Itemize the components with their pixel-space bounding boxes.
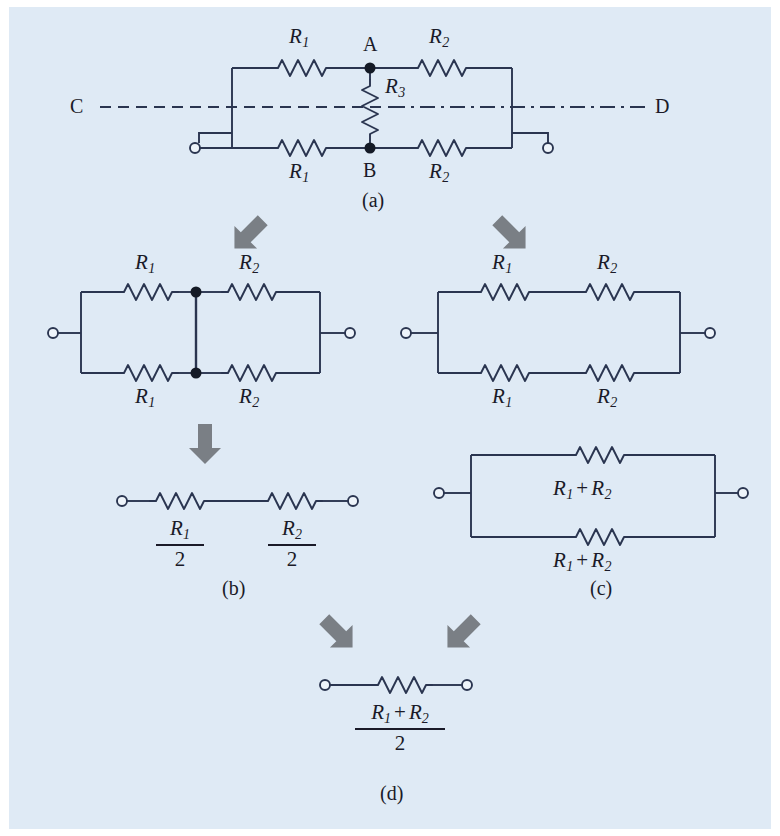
- panel-b-resistor-r1-top: [118, 284, 178, 300]
- panel-a-label-node-b: B: [363, 160, 376, 180]
- panel-b-node-b-dot: [191, 368, 202, 379]
- panel-c-label-r2-bottom: R2: [597, 386, 617, 410]
- panel-a-left-terminal-jog: [199, 133, 232, 143]
- panel-b-top-circuit: [48, 284, 355, 381]
- panel-c-final-resistor-bottom: [570, 529, 630, 545]
- arrow-b-top-to-b-final: [189, 424, 221, 464]
- panel-c-final-label-bottom: R1+R2: [553, 550, 612, 574]
- arrow-b-to-d: [313, 608, 364, 659]
- panel-a-resistor-r3: [362, 80, 378, 140]
- panel-a-node-a-dot: [365, 63, 376, 74]
- caption-b: (b): [222, 578, 245, 598]
- panel-c-right-terminal-node: [705, 328, 715, 338]
- panel-c-final-resistor-top: [570, 447, 630, 463]
- panel-d-resistor: [372, 677, 432, 693]
- panel-b-final-resistor-r2-half: [262, 493, 322, 509]
- panel-c-resistor-r2-bottom: [580, 365, 640, 381]
- panel-c-final-left-terminal-node: [434, 488, 444, 498]
- panel-c-left-terminal-node: [401, 328, 411, 338]
- panel-b-label-r1-top: R1: [135, 252, 155, 276]
- figure-root: R1 R2 R1 R2 R3 A B C D (a) R1 R2 R1 R2 R…: [0, 0, 780, 836]
- panel-c-label-r2-top: R2: [597, 252, 617, 276]
- panel-a-label-r2-bottom: R2: [429, 161, 449, 185]
- symmetry-axis-label-c: C: [70, 96, 83, 116]
- panel-b-final-circuit: [117, 493, 358, 509]
- panel-b-right-terminal-node: [345, 328, 355, 338]
- panel-b-resistor-r2-bottom: [222, 365, 282, 381]
- panel-a-node-b-dot: [365, 143, 376, 154]
- panel-a-label-node-a: A: [363, 34, 377, 54]
- symmetry-axis-label-d: D: [655, 96, 669, 116]
- panel-a-resistor-r2-top: [412, 60, 472, 76]
- panel-d-circuit: [320, 677, 472, 693]
- caption-d: (d): [380, 783, 403, 803]
- panel-a-label-r1-top: R1: [289, 26, 309, 50]
- panel-b-final-right-terminal-node: [348, 496, 358, 506]
- panel-c-top-circuit: [401, 284, 715, 381]
- panel-a-resistor-r1-top: [272, 60, 332, 76]
- panel-b-final-resistor-r1-half: [150, 493, 210, 509]
- panel-c-resistor-r1-bottom: [475, 365, 535, 381]
- panel-d-left-terminal-node: [320, 680, 330, 690]
- caption-c: (c): [590, 578, 612, 598]
- panel-b-resistor-r1-bottom: [118, 365, 178, 381]
- panel-a-label-r1-bottom: R1: [289, 161, 309, 185]
- panel-d-right-terminal-node: [462, 680, 472, 690]
- panel-b-final-label-r2-over-2: R2 2: [268, 518, 316, 570]
- panel-a-label-r3: R3: [385, 76, 405, 100]
- panel-c-resistor-r1-top: [475, 284, 535, 300]
- panel-b-left-terminal-node: [48, 328, 58, 338]
- panel-d-label-sum-over-2: R1+R2 2: [355, 702, 445, 754]
- panel-a-right-terminal-lead: [512, 133, 548, 143]
- panel-a-label-r2-top: R2: [429, 26, 449, 50]
- panel-b-label-r2-bottom: R2: [239, 386, 259, 410]
- panel-a-left-terminal-node: [190, 143, 200, 153]
- caption-a: (a): [362, 190, 384, 210]
- panel-a-circuit: [100, 60, 645, 156]
- panel-c-final-label-top: R1+R2: [553, 478, 612, 502]
- panel-b-label-r1-bottom: R1: [135, 386, 155, 410]
- panel-b-label-r2-top: R2: [239, 252, 259, 276]
- panel-c-resistor-r2-top: [580, 284, 640, 300]
- panel-b-final-left-terminal-node: [117, 496, 127, 506]
- panel-b-final-label-r1-over-2: R1 2: [156, 518, 204, 570]
- panel-b-resistor-r2-top: [222, 284, 282, 300]
- panel-a-resistor-r2-bottom: [412, 140, 472, 156]
- panel-a-resistor-r1-bottom: [272, 140, 332, 156]
- arrow-c-to-d: [436, 608, 487, 659]
- panel-b-node-a-dot: [191, 287, 202, 298]
- panel-c-final-right-terminal-node: [738, 488, 748, 498]
- panel-c-label-r1-bottom: R1: [492, 386, 512, 410]
- panel-c-label-r1-top: R1: [492, 252, 512, 276]
- panel-a-right-terminal-node: [543, 143, 553, 153]
